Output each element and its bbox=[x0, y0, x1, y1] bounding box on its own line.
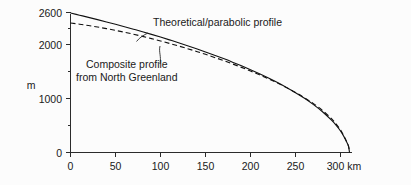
theoretical-profile-label: Theoretical/parabolic profile bbox=[153, 16, 282, 28]
x-tick-label-300-km: 300 km bbox=[327, 160, 362, 172]
x-tick-label-100: 100 bbox=[152, 160, 170, 172]
composite-profile-label-line1: Composite profile bbox=[86, 58, 168, 70]
x-tick-label-250: 250 bbox=[287, 160, 305, 172]
y-tick-label-0: 0 bbox=[56, 147, 62, 159]
theoretical-label-leader bbox=[137, 33, 149, 42]
series-composite-profile bbox=[71, 23, 350, 153]
y-tick-label-2600: 2600 bbox=[39, 7, 63, 19]
x-tick-label-200: 200 bbox=[242, 160, 260, 172]
y-tick-label-1000: 1000 bbox=[39, 93, 63, 105]
x-tick-label-0: 0 bbox=[68, 160, 74, 172]
y-tick-label-2000: 2000 bbox=[39, 39, 63, 51]
chart-figure: 2600 2000 1000 0 m 0 50 100 150 200 250 … bbox=[0, 0, 411, 185]
x-axis-ticks bbox=[71, 153, 341, 158]
y-axis-major-ticks bbox=[66, 13, 71, 153]
x-tick-label-150: 150 bbox=[197, 160, 215, 172]
x-tick-label-50: 50 bbox=[110, 160, 122, 172]
composite-profile-label-line2: from North Greenland bbox=[76, 71, 178, 83]
ice-sheet-profile-chart: 2600 2000 1000 0 m 0 50 100 150 200 250 … bbox=[0, 0, 411, 185]
y-axis-title: m bbox=[27, 79, 36, 91]
